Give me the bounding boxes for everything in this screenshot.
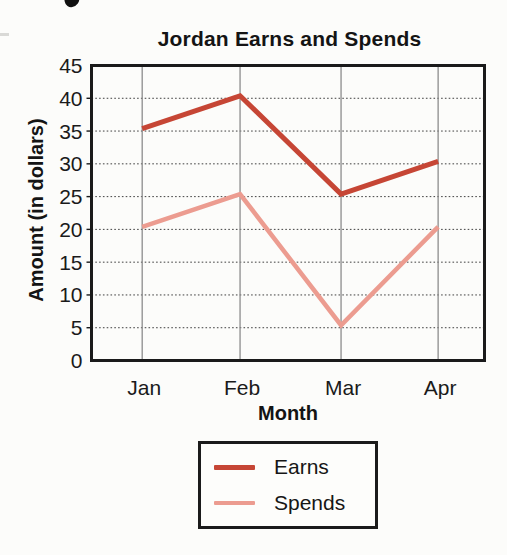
y-tick-label: 25 — [59, 185, 82, 208]
y-tick-label: 45 — [59, 54, 82, 77]
spends-line-swatch — [214, 501, 255, 505]
y-tick-label: 10 — [59, 283, 82, 306]
y-tick-label: 20 — [59, 218, 82, 241]
earns-line — [142, 96, 438, 194]
x-tick-label: Feb — [224, 376, 260, 399]
legend-label-spends: Spends — [274, 491, 345, 515]
y-tick-label: 35 — [59, 120, 82, 143]
x-tick-label: Mar — [325, 376, 361, 399]
x-tick-label: Jan — [127, 376, 161, 399]
chart-figure: Jordan Earns and Spends 0510152025303540… — [0, 0, 507, 555]
y-tick-label: 40 — [59, 87, 82, 110]
y-axis-title: Amount (in dollars) — [25, 118, 48, 301]
y-tick-label: 5 — [71, 316, 83, 339]
x-axis-title: Month — [91, 402, 485, 425]
y-tick-label: 0 — [71, 349, 83, 372]
earns-line-swatch — [214, 465, 255, 470]
y-tick-label: 15 — [59, 251, 82, 274]
legend: Earns Spends — [198, 441, 378, 529]
legend-label-earns: Earns — [274, 455, 329, 479]
y-tick-label: 30 — [59, 152, 82, 175]
legend-item-spends: Spends — [214, 491, 375, 515]
spends-line — [142, 194, 438, 325]
x-tick-label: Apr — [424, 376, 457, 399]
plot-frame — [92, 66, 485, 361]
legend-item-earns: Earns — [214, 455, 375, 479]
